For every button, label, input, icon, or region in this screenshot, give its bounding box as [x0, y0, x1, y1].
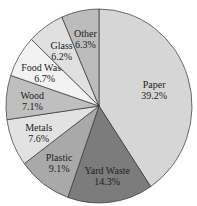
slice-value: 6.2%: [51, 51, 72, 62]
slice-value: 6.3%: [75, 39, 96, 50]
pie-chart: Paper39.2%Yard Waste14.3%Plastic9.1%Meta…: [0, 0, 197, 206]
slice-label: Other: [74, 28, 97, 39]
slice-label: Paper: [143, 79, 166, 90]
slice-label: Glass: [50, 40, 72, 51]
slice-label: Wood: [20, 90, 44, 101]
slice-value: 39.2%: [141, 90, 167, 101]
slice-label: Plastic: [46, 152, 73, 163]
slice-value: 7.6%: [28, 133, 49, 144]
slice-value: 7.1%: [22, 101, 43, 112]
slice-value: 14.3%: [94, 176, 120, 187]
slice-value: 9.1%: [49, 163, 70, 174]
slice-value: 6.7%: [34, 73, 55, 84]
slice-label: Yard Waste: [85, 165, 131, 176]
slice-label: Metals: [25, 122, 52, 133]
